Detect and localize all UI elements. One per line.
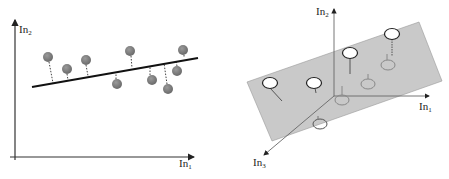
regression-diagram — [0, 0, 449, 179]
right-x-axis-label: In1 — [419, 101, 432, 114]
left-y-axis-label: In2 — [19, 24, 32, 37]
left-x-axis-label: In1 — [179, 158, 192, 171]
left-2d-regression — [10, 20, 198, 160]
right-y-axis-label: In2 — [316, 6, 329, 19]
data-points — [43, 45, 188, 94]
right-3d-regression — [247, 9, 442, 155]
right-z-axis-label: In3 — [253, 157, 266, 170]
